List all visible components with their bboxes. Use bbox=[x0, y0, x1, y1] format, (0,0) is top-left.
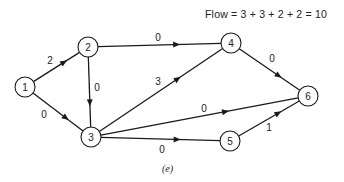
edge-3-5 bbox=[101, 136, 220, 142]
edge-2-4 bbox=[98, 42, 221, 48]
node-label: 3 bbox=[88, 132, 94, 143]
edge-line bbox=[88, 57, 90, 127]
edge-3-4 bbox=[99, 49, 222, 132]
arrowhead-icon bbox=[61, 113, 68, 120]
flow-network-diagram: 200030001 123456 bbox=[0, 0, 344, 182]
arrowhead-icon bbox=[59, 60, 67, 66]
node-label: 2 bbox=[85, 42, 91, 53]
edge-flow-label: 0 bbox=[41, 109, 47, 120]
arrowhead-icon bbox=[274, 71, 281, 77]
node-2: 2 bbox=[78, 37, 98, 57]
node-5: 5 bbox=[220, 131, 240, 151]
edge-flow-label: 0 bbox=[94, 82, 100, 93]
edge-flow-label: 0 bbox=[201, 103, 207, 114]
edge-line bbox=[99, 49, 222, 132]
node-label: 1 bbox=[22, 82, 28, 93]
node-6: 6 bbox=[298, 86, 318, 106]
figure-caption: (e) bbox=[162, 163, 173, 174]
node-label: 5 bbox=[227, 136, 233, 147]
edge-flow-label: 1 bbox=[266, 122, 272, 133]
nodes-layer: 123456 bbox=[15, 33, 318, 151]
edge-line bbox=[101, 137, 220, 140]
node-label: 6 bbox=[305, 91, 311, 102]
node-4: 4 bbox=[221, 33, 241, 53]
edge-2-3 bbox=[87, 57, 93, 127]
arrowhead-icon bbox=[173, 42, 180, 48]
node-3: 3 bbox=[81, 127, 101, 147]
arrowhead-icon bbox=[174, 136, 181, 142]
edge-flow-label: 3 bbox=[155, 76, 161, 87]
edge-flow-label: 0 bbox=[159, 144, 165, 155]
edge-line bbox=[98, 43, 221, 46]
edges-layer bbox=[33, 42, 300, 143]
edge-1-2 bbox=[33, 52, 79, 81]
node-1: 1 bbox=[15, 77, 35, 97]
node-label: 4 bbox=[228, 38, 234, 49]
edge-flow-label: 0 bbox=[155, 32, 161, 43]
edge-line bbox=[33, 52, 79, 81]
arrowhead-icon bbox=[87, 99, 93, 106]
arrowhead-icon bbox=[173, 77, 180, 83]
edge-flow-label: 0 bbox=[269, 53, 275, 64]
edge-flow-label: 2 bbox=[47, 55, 53, 66]
arrowhead-icon bbox=[222, 109, 229, 115]
